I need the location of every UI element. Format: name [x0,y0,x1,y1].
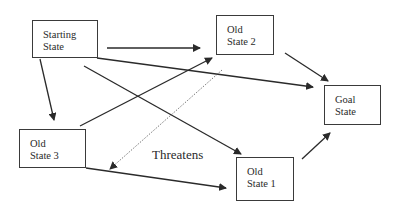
node-old-state-1: Old State 1 [236,157,294,201]
node-starting-state: Starting State [32,20,98,58]
node-label: State [335,106,380,118]
node-label: State 1 [247,178,293,190]
node-old-state-2: Old State 2 [216,15,274,55]
node-label: Starting [43,29,97,41]
node-goal-state: Goal State [324,85,381,125]
threatens-label: Threatens [152,147,203,163]
node-label: Old [30,138,85,150]
edge-old1-to-goal [302,133,330,159]
node-label: State 3 [30,150,85,162]
edge-starting-to-old1 [84,66,241,154]
edge-old3-to-old2 [80,58,212,126]
edge-starting-to-goal [97,58,313,87]
edge-old3-to-old1 [86,168,226,188]
node-old-state-3: Old State 3 [19,129,86,168]
node-label: Old [247,166,293,178]
node-label: State [43,41,97,53]
node-label: State 2 [227,36,273,48]
node-label: Goal [335,94,380,106]
edge-starting-to-old3 [40,59,54,120]
edge-old2-to-goal [285,53,328,81]
node-label: Old [227,24,273,36]
